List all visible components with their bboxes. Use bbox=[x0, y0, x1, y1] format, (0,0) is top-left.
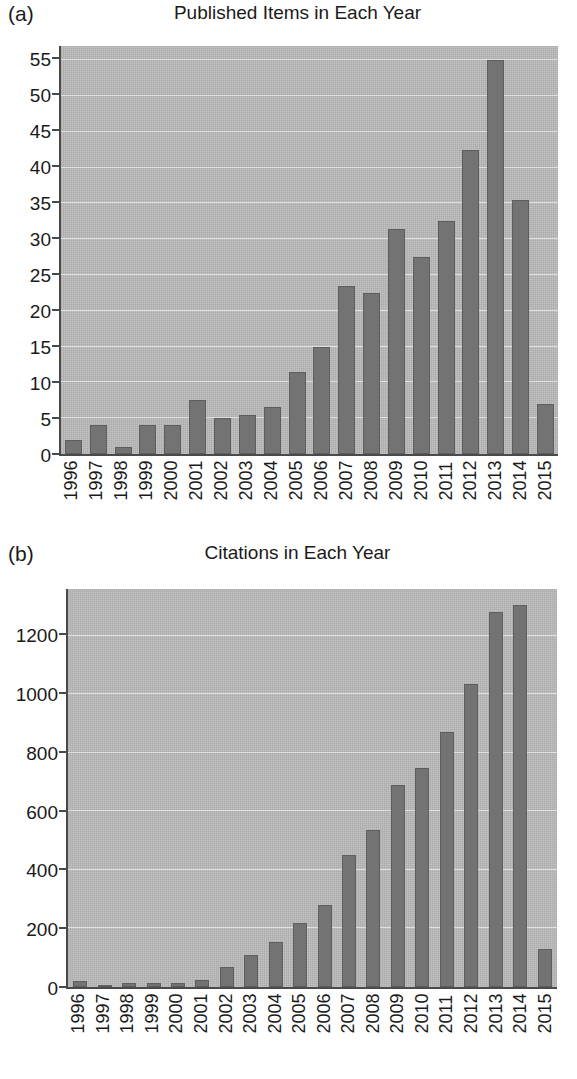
x-axis-b: 1996199719981999200020012002200320042005… bbox=[66, 989, 557, 1073]
y-axis-tick-mark bbox=[52, 417, 59, 419]
y-axis-tick-mark bbox=[59, 751, 66, 753]
bar bbox=[269, 942, 283, 987]
y-axis-tick-label: 15 bbox=[30, 337, 51, 359]
y-axis-tick-label: 55 bbox=[30, 49, 51, 71]
y-axis-tick-mark bbox=[59, 633, 66, 635]
bar bbox=[115, 447, 132, 454]
bar bbox=[513, 605, 527, 987]
y-axis-tick-mark bbox=[59, 810, 66, 812]
panel-a-title: Published Items in Each Year bbox=[0, 2, 577, 24]
bar bbox=[462, 150, 479, 454]
bar bbox=[388, 229, 405, 454]
y-axis-tick-label: 400 bbox=[26, 860, 58, 882]
bar bbox=[139, 425, 156, 454]
bar bbox=[289, 372, 306, 454]
bar bbox=[147, 983, 161, 987]
bar bbox=[73, 981, 87, 987]
y-axis-tick-label: 10 bbox=[30, 373, 51, 395]
bar bbox=[65, 440, 82, 454]
bar bbox=[366, 830, 380, 987]
y-axis-tick-label: 5 bbox=[40, 409, 51, 431]
y-axis-tick-mark bbox=[52, 345, 59, 347]
bar bbox=[537, 404, 554, 454]
bar bbox=[440, 732, 454, 987]
y-axis-tick-label: 40 bbox=[30, 157, 51, 179]
chart-a: 0510152025303540455055 19961997199819992… bbox=[59, 46, 558, 456]
y-axis-a: 0510152025303540455055 bbox=[2, 46, 59, 456]
bar bbox=[342, 855, 356, 987]
panel-a: (a) Published Items in Each Year 0510152… bbox=[0, 0, 577, 540]
bar bbox=[489, 612, 503, 987]
bar bbox=[220, 967, 234, 987]
plot-area-a bbox=[59, 46, 558, 456]
bar bbox=[293, 923, 307, 987]
bar bbox=[391, 785, 405, 987]
bar bbox=[195, 980, 209, 987]
bar bbox=[122, 983, 136, 987]
y-axis-tick-mark bbox=[59, 868, 66, 870]
bar bbox=[338, 286, 355, 454]
bar bbox=[538, 949, 552, 987]
bar bbox=[264, 407, 281, 454]
y-axis-tick-mark bbox=[59, 927, 66, 929]
y-axis-tick-mark bbox=[52, 453, 59, 455]
bar bbox=[164, 425, 181, 454]
bar bbox=[239, 415, 256, 454]
bar bbox=[464, 684, 478, 987]
bar bbox=[313, 347, 330, 454]
bar bbox=[512, 200, 529, 454]
y-axis-tick-mark bbox=[52, 57, 59, 59]
bar bbox=[318, 905, 332, 987]
y-axis-tick-label: 0 bbox=[40, 445, 51, 467]
bar bbox=[438, 221, 455, 454]
y-axis-tick-label: 35 bbox=[30, 193, 51, 215]
y-axis-tick-mark bbox=[59, 692, 66, 694]
y-axis-tick-label: 600 bbox=[26, 802, 58, 824]
y-axis-tick-label: 0 bbox=[47, 978, 58, 1000]
chart-b: 020040060080010001200 199619971998199920… bbox=[66, 589, 557, 989]
figure-root: (a) Published Items in Each Year 0510152… bbox=[0, 0, 577, 1079]
y-axis-tick-mark bbox=[52, 273, 59, 275]
panel-b-title: Citations in Each Year bbox=[0, 542, 577, 564]
bar bbox=[487, 60, 504, 454]
bar bbox=[244, 955, 258, 987]
bar bbox=[90, 425, 107, 454]
plot-area-b bbox=[66, 589, 557, 989]
y-axis-tick-label: 200 bbox=[26, 919, 58, 941]
y-axis-tick-label: 800 bbox=[26, 743, 58, 765]
y-axis-tick-mark bbox=[52, 165, 59, 167]
y-axis-tick-label: 1200 bbox=[16, 625, 58, 647]
y-axis-tick-label: 45 bbox=[30, 121, 51, 143]
y-axis-tick-mark bbox=[52, 237, 59, 239]
y-axis-tick-label: 50 bbox=[30, 85, 51, 107]
y-axis-tick-mark bbox=[52, 93, 59, 95]
bar bbox=[415, 768, 429, 987]
y-axis-tick-label: 20 bbox=[30, 301, 51, 323]
y-axis-tick-mark bbox=[52, 129, 59, 131]
bar bbox=[98, 985, 112, 987]
y-axis-tick-mark bbox=[52, 309, 59, 311]
bar bbox=[413, 257, 430, 454]
bar bbox=[189, 400, 206, 454]
y-axis-tick-label: 25 bbox=[30, 265, 51, 287]
y-axis-tick-label: 1000 bbox=[16, 684, 58, 706]
y-axis-b: 020040060080010001200 bbox=[2, 589, 66, 989]
bar-series-a bbox=[61, 46, 558, 454]
bar bbox=[363, 293, 380, 454]
bar-series-b bbox=[68, 589, 557, 987]
panel-b: (b) Citations in Each Year 0200400600800… bbox=[0, 540, 577, 1079]
x-axis-a: 1996199719981999200020012002200320042005… bbox=[59, 456, 558, 540]
bar bbox=[171, 983, 185, 987]
y-axis-tick-mark bbox=[59, 986, 66, 988]
bar bbox=[214, 418, 231, 454]
y-axis-tick-label: 30 bbox=[30, 229, 51, 251]
y-axis-tick-mark bbox=[52, 201, 59, 203]
y-axis-tick-mark bbox=[52, 381, 59, 383]
